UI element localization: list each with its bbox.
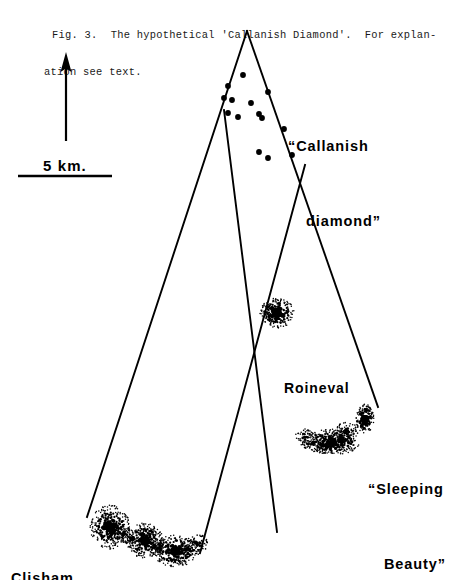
stipple-dot [152,547,154,549]
stipple-dot [159,558,161,560]
stipple-dot [201,540,203,542]
stipple-dot [173,562,175,564]
stipple-dot [146,532,148,534]
stipple-dot [149,527,151,529]
stipple-dot [139,525,141,527]
stipple-dot [370,408,372,410]
stipple-dot [183,555,185,557]
stipple-dot [111,543,113,545]
stipple-dot [357,424,359,426]
stipple-dot [114,523,117,526]
stipple-dot [104,535,106,537]
stipple-dot [148,542,150,544]
stipple-dot [132,541,134,543]
stipple-dot [139,552,141,554]
stipple-dot [275,320,277,322]
stipple-dot [184,541,186,543]
stipple-dot [177,559,179,561]
site-dot [259,115,265,121]
stipple-dot [262,315,264,317]
stipple-dot [132,532,134,534]
stipple-dot [370,416,372,418]
stipple-dot [365,411,367,413]
stipple-dot [130,546,132,548]
stipple-dot [172,545,175,548]
site-dot-group [221,72,295,161]
stipple-dot [141,550,143,552]
stipple-dot [114,529,116,531]
stipple-dot [266,302,268,304]
stipple-dot [117,533,119,535]
site-dot [229,97,235,103]
site-dot [256,149,262,155]
stipple-dot [101,535,103,537]
stipple-dot [354,440,356,442]
stipple-dot [127,519,129,521]
stipple-dot [180,543,182,545]
stipple-dot [100,512,102,514]
stipple-dot [113,548,115,550]
stipple-dot [150,547,152,549]
stipple-dot [186,550,188,552]
stipple-dot [95,512,97,514]
stipple-dot [140,553,142,555]
stipple-dot [187,553,189,555]
stipple-dot [365,429,367,431]
stipple-dot [270,324,272,326]
stipple-dot [357,421,359,423]
stipple-dot [136,555,138,557]
stipple-dot [262,305,264,307]
stipple-dot [129,537,132,540]
stipple-dot [92,527,94,529]
stipple-dot [159,555,161,557]
stipple-dot [352,444,354,446]
site-dot [221,95,227,101]
stipple-dot [188,554,190,556]
stipple-dot [352,442,354,444]
stipple-dot [320,451,322,453]
stipple-dot [165,536,167,538]
stipple-dot [293,310,295,312]
stipple-dot [204,543,206,545]
stipple-dot [353,436,355,438]
stipple-dot [370,413,372,415]
stipple-dot [350,429,352,431]
stipple-dot [141,528,143,530]
stipple-dot [325,451,327,453]
stipple-dot [104,542,106,544]
stipple-dot [125,533,127,535]
stipple-dot [141,542,143,544]
stipple-dot [198,553,200,555]
site-dot [248,100,254,106]
stipple-dot [109,517,111,519]
stipple-dot [349,449,351,451]
stipple-dot [122,531,125,534]
stipple-dot [98,532,100,534]
stipple-dot [359,407,361,409]
stipple-dot [263,311,265,313]
stipple-dot [145,534,148,537]
stipple-dot [290,304,292,306]
stipple-dot [166,550,168,552]
stipple-dot [120,541,122,543]
stipple-dot [129,534,131,536]
stipple-dot [196,534,198,536]
stipple-dot [153,540,155,542]
stipple-dot [283,321,285,323]
stipple-dot [266,306,268,308]
stipple-dot [110,511,112,513]
stipple-dot [120,526,122,528]
stipple-dot [373,417,375,419]
stipple-dot [183,553,185,555]
stipple-dot [202,543,204,545]
stipple-dot [89,526,91,528]
stipple-dot [109,505,111,507]
stipple-dot [135,548,137,550]
stipple-dot [182,560,184,562]
stipple-dot [367,406,369,408]
stipple-dot [284,302,286,304]
stipple-dot [142,538,144,540]
stipple-dot [355,430,357,432]
site-dot [281,126,287,132]
stipple-dot [138,532,140,534]
